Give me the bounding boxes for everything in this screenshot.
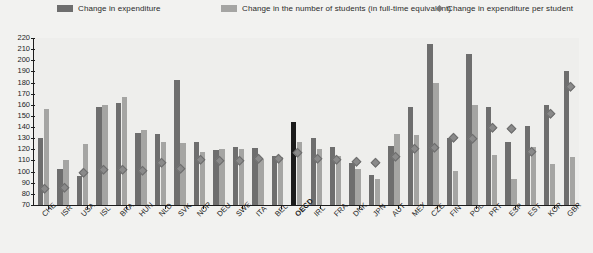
bar-group — [447, 38, 458, 205]
bar-change-in-students — [102, 105, 107, 205]
bar-change-in-expenditure — [544, 105, 549, 205]
legend-label-expenditure: Change in expenditure — [78, 4, 161, 13]
bar-change-in-students — [550, 164, 555, 205]
x-axis-label-isl: ISL — [98, 204, 113, 219]
bar-change-in-expenditure — [564, 71, 569, 205]
bar-group — [213, 38, 224, 205]
bar-group — [330, 38, 341, 205]
y-axis-tick-mark — [31, 60, 35, 61]
bar-group — [291, 38, 302, 205]
y-axis-tick-label: 210 — [6, 45, 30, 53]
bar-change-in-expenditure — [525, 126, 530, 205]
y-axis-tick-mark — [31, 127, 35, 128]
y-axis-tick-mark — [31, 205, 35, 206]
bar-change-in-expenditure — [38, 138, 43, 205]
bar-group — [252, 38, 263, 205]
bar-group — [427, 38, 438, 205]
bar-group — [96, 38, 107, 205]
legend-item-expenditure-per-student: Change in expenditure per student — [437, 4, 573, 13]
chart-legend: Change in expenditure Change in the numb… — [0, 0, 593, 22]
bar-change-in-students — [375, 179, 380, 205]
plot-area: 7080901001101201301401501601701801902002… — [33, 38, 579, 206]
bar-change-in-students — [570, 157, 575, 205]
bar-group — [544, 38, 555, 205]
chart-screenshot: Change in expenditure Change in the numb… — [0, 0, 593, 253]
legend-swatch-students — [221, 5, 237, 12]
bar-group — [564, 38, 575, 205]
bar-group — [369, 38, 380, 205]
bar-group — [116, 38, 127, 205]
y-axis-tick-mark — [31, 172, 35, 173]
bar-group — [194, 38, 205, 205]
legend-item-change-in-expenditure: Change in expenditure — [57, 4, 161, 13]
y-axis-tick-label: 70 — [6, 201, 30, 209]
legend-label-expenditure-per-student: Change in expenditure per student — [447, 4, 573, 13]
bar-change-in-expenditure — [96, 107, 101, 205]
bar-change-in-expenditure — [427, 44, 432, 205]
bar-change-in-expenditure — [155, 134, 160, 205]
bar-change-in-expenditure — [311, 138, 316, 205]
y-axis-tick-label: 140 — [6, 123, 30, 131]
bar-change-in-expenditure — [174, 80, 179, 205]
bar-change-in-expenditure — [233, 147, 238, 205]
legend-swatch-expenditure — [57, 5, 73, 12]
y-axis-tick-mark — [31, 138, 35, 139]
bar-change-in-expenditure — [466, 54, 471, 205]
bar-group — [174, 38, 185, 205]
y-axis-tick-label: 80 — [6, 190, 30, 198]
y-axis-tick-label: 170 — [6, 90, 30, 98]
bar-group — [525, 38, 536, 205]
y-axis-tick-mark — [31, 105, 35, 106]
bar-change-in-students — [161, 142, 166, 205]
bar-change-in-expenditure — [447, 138, 452, 205]
bar-group — [505, 38, 516, 205]
y-axis-tick-mark — [31, 116, 35, 117]
bar-change-in-students — [180, 143, 185, 205]
x-axis-label-ita: ITA — [254, 204, 268, 218]
y-axis-tick-label: 200 — [6, 56, 30, 64]
bar-change-in-expenditure — [194, 142, 199, 205]
bar-group — [388, 38, 399, 205]
y-axis-tick-label: 120 — [6, 145, 30, 153]
y-axis-tick-mark — [31, 183, 35, 184]
legend-label-students: Change in the number of students (in ful… — [242, 4, 451, 13]
bar-change-in-students — [258, 159, 263, 205]
bar-change-in-expenditure — [408, 107, 413, 205]
bar-group — [349, 38, 360, 205]
bar-group — [408, 38, 419, 205]
bar-change-in-expenditure — [77, 176, 82, 205]
y-axis-tick-label: 220 — [6, 34, 30, 42]
bar-group — [486, 38, 497, 205]
y-axis-tick-mark — [31, 94, 35, 95]
bar-change-in-students — [472, 105, 477, 205]
bar-change-in-expenditure — [486, 107, 491, 205]
bar-change-in-students — [492, 155, 497, 205]
bar-group — [155, 38, 166, 205]
y-axis-tick-label: 90 — [6, 179, 30, 187]
y-axis-tick-mark — [31, 71, 35, 72]
y-axis-tick-label: 100 — [6, 168, 30, 176]
legend-item-change-in-students: Change in the number of students (in ful… — [221, 4, 451, 13]
bar-group — [272, 38, 283, 205]
bar-group — [77, 38, 88, 205]
legend-diamond-marker-icon — [436, 5, 443, 12]
bar-group — [233, 38, 244, 205]
bar-change-in-students — [453, 171, 458, 206]
bar-group — [38, 38, 49, 205]
y-axis-tick-mark — [31, 83, 35, 84]
y-axis-tick-label: 180 — [6, 79, 30, 87]
bar-change-in-students — [278, 157, 283, 205]
y-axis-tick-label: 110 — [6, 156, 30, 164]
bar-group — [311, 38, 322, 205]
bar-change-in-expenditure — [291, 122, 296, 206]
y-axis-tick-mark — [31, 49, 35, 50]
bar-change-in-students — [122, 97, 127, 205]
y-axis-tick-mark — [31, 160, 35, 161]
y-axis-tick-mark — [31, 194, 35, 195]
y-axis-tick-label: 130 — [6, 134, 30, 142]
bar-group — [135, 38, 146, 205]
bar-group — [466, 38, 477, 205]
bar-change-in-expenditure — [505, 142, 510, 205]
marker-expenditure-per-student — [371, 158, 381, 168]
y-axis-tick-mark — [31, 38, 35, 39]
